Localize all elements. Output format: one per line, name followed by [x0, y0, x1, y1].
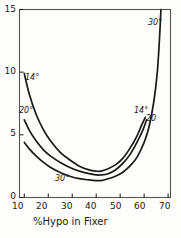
plot-frame — [20, 10, 171, 198]
curve-paths — [24, 10, 161, 181]
curve-label-30-top: 30° — [148, 18, 162, 27]
curve-label-20-left: 20° — [19, 106, 33, 115]
x-axis-title: %Hypo in Fixer — [33, 216, 108, 227]
x-tick-label-20: 20 — [36, 201, 47, 211]
x-tick-label-60: 60 — [134, 201, 145, 211]
y-tick-label-0: 0 — [1, 191, 16, 201]
x-tick-label-70: 70 — [159, 201, 170, 211]
curve-30° — [24, 10, 161, 181]
y-tick-label-15: 15 — [1, 4, 16, 14]
axis-ticks — [20, 10, 169, 198]
x-tick-label-50: 50 — [110, 201, 121, 211]
curve-14° — [24, 73, 145, 171]
y-tick-label-5: 5 — [1, 128, 16, 138]
figure-container: 15 10 5 0 10 20 30 40 50 60 70 %Hypo in … — [0, 0, 181, 238]
x-tick-label-10: 10 — [12, 201, 23, 211]
curve-label-20-right: 20 — [146, 114, 156, 123]
x-tick-label-30: 30 — [61, 201, 72, 211]
x-tick-label-40: 40 — [85, 201, 96, 211]
curve-label-14-left: 14° — [25, 73, 39, 82]
y-tick-label-10: 10 — [1, 66, 16, 76]
curve-label-30-bottom: 30° — [55, 174, 69, 183]
